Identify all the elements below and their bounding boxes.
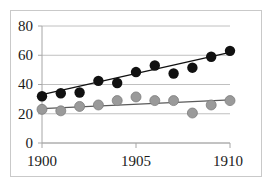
y-axis-label-0: 0: [3, 136, 33, 151]
data-point: [187, 108, 197, 118]
data-point: [74, 87, 84, 97]
x-axis-label-1900: 1900: [12, 154, 72, 169]
data-point: [168, 68, 178, 78]
y-axis-label-60: 60: [3, 48, 33, 63]
data-point: [112, 96, 122, 106]
data-point: [37, 104, 47, 114]
data-point: [169, 96, 179, 106]
data-point: [93, 100, 103, 110]
data-point: [93, 76, 103, 86]
y-axis-label-80: 80: [3, 19, 33, 34]
data-point: [206, 100, 216, 110]
data-point: [187, 62, 197, 72]
data-point: [150, 96, 160, 106]
data-point: [225, 96, 235, 106]
y-axis-label-40: 40: [3, 77, 33, 92]
axes: [38, 26, 230, 148]
data-point: [75, 101, 85, 111]
data-point: [131, 92, 141, 102]
data-point: [37, 91, 47, 101]
data-point: [150, 60, 160, 70]
data-point: [225, 46, 235, 56]
x-axis-label-1905: 1905: [106, 154, 166, 169]
x-axis-label-1910: 1910: [198, 154, 258, 169]
data-point: [206, 52, 216, 62]
data-point: [131, 67, 141, 77]
data-point: [56, 88, 66, 98]
data-point: [56, 106, 66, 116]
gridlines: [42, 26, 230, 143]
y-axis-label-20: 20: [3, 107, 33, 122]
data-point: [112, 78, 122, 88]
